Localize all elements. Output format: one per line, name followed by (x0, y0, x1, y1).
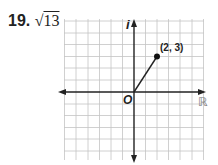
point-marker (154, 54, 160, 60)
origin-label: O (123, 93, 133, 107)
imaginary-axis-label: i (126, 17, 130, 32)
real-axis-left-arrow-icon (58, 89, 66, 95)
complex-plane-diagram: (2, 3) O i ℝ (0, 0, 218, 165)
point-label: (2, 3) (160, 42, 183, 53)
imaginary-axis-up-arrow-icon (131, 19, 137, 27)
real-axis-label: ℝ (198, 95, 208, 109)
imaginary-axis-down-arrow-icon (131, 155, 137, 163)
